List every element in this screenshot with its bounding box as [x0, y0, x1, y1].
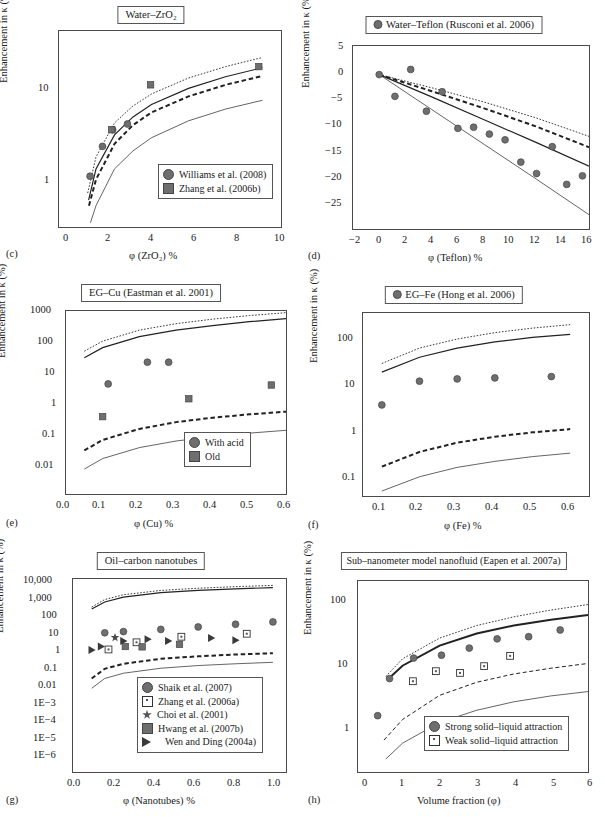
- circle-marker-icon: [189, 437, 200, 448]
- panel-f-xlabel: φ (Fe) %: [444, 520, 482, 531]
- star-marker-icon: [142, 710, 152, 720]
- panel-c-xlabel: φ (ZrO₂) %: [129, 250, 177, 261]
- data-point: [457, 670, 464, 677]
- figure-grid: Water–ZrO₂ Enhancement in κ (%) 10 1 0 2…: [0, 0, 605, 817]
- data-point: [517, 159, 524, 166]
- panel-g-ytick-2: 100: [41, 609, 57, 620]
- panel-d-xtick-4: 6: [454, 234, 459, 245]
- legend-item[interactable]: Williams et al. (2008): [163, 168, 266, 182]
- panel-h-ytick-1: 10: [337, 658, 348, 669]
- legend-item[interactable]: Wen and Ding (2004a): [142, 735, 256, 749]
- panel-h: Sub–nanometer model nanofluid (Eapen et …: [302, 550, 605, 817]
- legend-item[interactable]: Weak solid–liquid attraction: [429, 734, 562, 748]
- panel-h-xlabel: Volume fraction (φ): [417, 795, 500, 806]
- panel-f-xtick-0: 0.1: [372, 501, 385, 512]
- panel-e-xtick-2: 0.2: [129, 499, 142, 510]
- data-point: [374, 712, 381, 719]
- legend-label: Williams et al. (2008): [179, 168, 266, 182]
- panel-c-xtick-1: 2: [105, 232, 110, 243]
- panel-f-xtick-1: 0.2: [409, 501, 422, 512]
- panel-c-xtick-4: 8: [234, 232, 239, 243]
- data-point: [178, 633, 185, 640]
- triangle-marker-icon: [142, 737, 160, 747]
- data-point: [470, 124, 477, 131]
- panel-g-ylabel: Enhancement in κ (%): [2, 590, 18, 770]
- data-point: [481, 663, 488, 670]
- panel-f-xtick-4: 0.5: [523, 501, 536, 512]
- panel-e-ytick-2: 10: [44, 366, 55, 377]
- panel-g-xtick-2: 0.4: [147, 777, 160, 788]
- panel-c-ytick-1: 1: [44, 174, 49, 185]
- open-square-marker-icon: [142, 696, 153, 707]
- curve-lower-solid: [90, 100, 262, 222]
- panel-d-ytick-3: −10: [325, 118, 341, 129]
- panel-h-xtick-6: 6: [587, 777, 592, 788]
- panel-g-title-text: Oil–carbon nanotubes: [105, 555, 197, 566]
- legend-item[interactable]: Choi et al. (2001): [142, 708, 256, 722]
- panel-d-xlabel: φ (Teflon) %: [428, 252, 482, 263]
- square-marker-icon: [189, 451, 200, 462]
- panel-d: Water–Teflon (Rusconi et al. 2006) Enhan…: [302, 0, 605, 280]
- data-point: [491, 375, 498, 382]
- curve-lower-thin: [382, 453, 570, 491]
- data-point: [563, 181, 570, 188]
- data-point: [268, 382, 274, 388]
- data-point: [579, 172, 586, 179]
- panel-d-xtick-1: 0: [376, 234, 381, 245]
- data-point: [548, 373, 555, 380]
- data-point: [186, 396, 192, 402]
- legend-label: Hwang et al. (2007b): [158, 722, 243, 736]
- panel-e-legend: With acid Old: [184, 432, 251, 467]
- data-point: [392, 93, 399, 100]
- legend-item[interactable]: Zhang et al. (2006a): [142, 695, 256, 709]
- panel-c-xtick-3: 6: [191, 232, 196, 243]
- panel-g-title: Oil–carbon nanotubes: [97, 552, 205, 570]
- circle-marker-icon: [163, 169, 174, 180]
- data-point: [557, 627, 564, 634]
- legend-label: Shaik et al. (2007): [158, 681, 232, 695]
- legend-item[interactable]: Zhang et al. (2006b): [163, 182, 266, 196]
- panel-g-ytick-7: 1E−3: [33, 697, 56, 708]
- curve-lower-dashed: [382, 429, 570, 467]
- legend-item[interactable]: With acid: [189, 436, 244, 450]
- data-point: [410, 655, 417, 662]
- legend-label: Old: [205, 450, 220, 464]
- data-point: [376, 71, 383, 78]
- panel-g-ytick-0: 10,000: [23, 574, 52, 585]
- panel-f-xtick-2: 0.3: [447, 501, 460, 512]
- legend-label: With acid: [205, 436, 244, 450]
- panel-c-title: Water–ZrO₂: [117, 6, 184, 24]
- data-point: [120, 628, 127, 635]
- data-point: [176, 641, 182, 647]
- panel-f-ytick-3: 0.1: [342, 471, 355, 482]
- panel-g-legend: Shaik et al. (2007) Zhang et al. (2006a)…: [137, 677, 263, 753]
- data-point: [423, 108, 430, 115]
- legend-item[interactable]: Old: [189, 450, 244, 464]
- data-point: [486, 131, 493, 138]
- legend-label: Zhang et al. (2006a): [158, 695, 239, 709]
- panel-h-ylabel: Enhancement in κ (%): [310, 595, 326, 770]
- data-point: [494, 635, 501, 642]
- panel-e-plot: [65, 310, 287, 495]
- panel-f-plot: [362, 312, 590, 497]
- curve-upper-dotted: [84, 313, 286, 351]
- square-marker-icon: [142, 723, 153, 734]
- panel-g-ytick-1: 1,000: [28, 592, 52, 603]
- panel-e: EG–Cu (Eastman et al. 2001) Enhancement …: [0, 280, 302, 550]
- panel-c: Water–ZrO₂ Enhancement in κ (%) 10 1 0 2…: [0, 0, 302, 280]
- data-point: [549, 143, 556, 150]
- legend-item[interactable]: Hwang et al. (2007b): [142, 722, 256, 736]
- panel-g-xtick-0: 0.0: [67, 777, 80, 788]
- data-point: [378, 402, 385, 409]
- data-point: [87, 173, 94, 180]
- data-point: [109, 127, 115, 133]
- data-point: [105, 380, 112, 387]
- panel-e-ylabel: Enhancement in κ (%): [4, 320, 20, 490]
- panel-c-ytick-0: 10: [38, 82, 49, 93]
- panel-d-ytick-0: 5: [338, 40, 343, 51]
- curve-bold-dashed: [379, 75, 589, 148]
- legend-item[interactable]: Shaik et al. (2007): [142, 681, 256, 695]
- panel-d-ylabel: Enhancement in κ (%): [308, 50, 324, 220]
- legend-item[interactable]: Strong solid–liquid attraction: [429, 720, 562, 734]
- panel-d-letter: (d): [308, 250, 320, 261]
